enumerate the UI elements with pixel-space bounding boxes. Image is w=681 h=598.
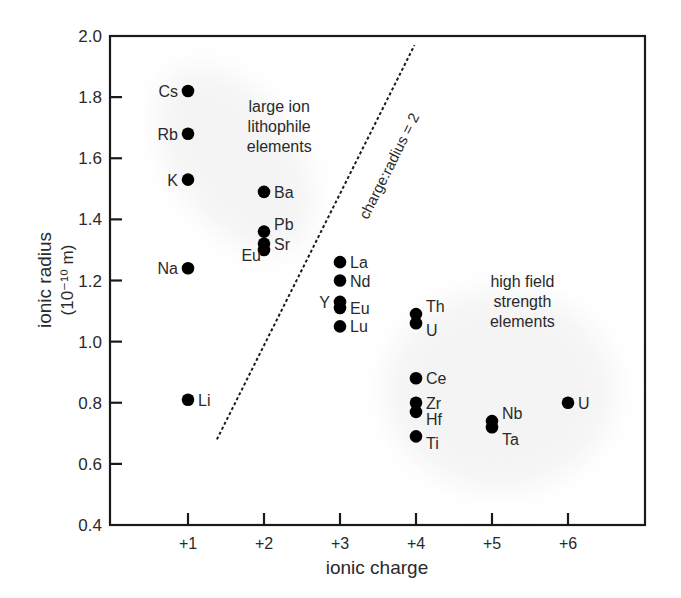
region-annotation: elements — [247, 138, 312, 155]
region-annotation: lithophile — [248, 118, 311, 135]
y-tick-label: 0.6 — [78, 455, 102, 474]
point-label: Cs — [158, 83, 178, 100]
point-label: Y — [319, 294, 330, 311]
point-label: Lu — [350, 318, 368, 335]
y-tick-label: 0.4 — [78, 516, 102, 535]
point-label: La — [350, 254, 368, 271]
point-label: Nb — [502, 405, 523, 422]
reference-line-label: charge:radius = 2 — [355, 110, 422, 222]
data-point-rb — [182, 128, 195, 141]
data-point-hf — [410, 406, 423, 419]
point-label: Ba — [274, 184, 294, 201]
x-tick-label: +6 — [559, 535, 577, 552]
x-tick-label: +4 — [407, 535, 425, 552]
point-label: Ce — [426, 370, 447, 387]
data-point-lu — [334, 320, 347, 333]
scatter-chart: 0.40.60.81.01.21.41.61.82.0+1+2+3+4+5+6 … — [0, 0, 681, 598]
region-annotation: large ion — [249, 98, 310, 115]
x-tick-label: +5 — [483, 535, 501, 552]
point-label: K — [167, 172, 178, 189]
y-tick-label: 1.6 — [78, 149, 102, 168]
data-point-nd — [334, 274, 347, 287]
region-annotation: strength — [493, 293, 551, 310]
data-point-li — [182, 393, 195, 406]
data-point-ta — [486, 421, 499, 434]
y-tick-label: 0.8 — [78, 394, 102, 413]
point-label: Sr — [274, 236, 291, 253]
region-shading — [124, 38, 615, 490]
data-point-eu — [334, 302, 347, 315]
point-label: Nd — [350, 273, 370, 290]
lile-region — [124, 38, 346, 281]
data-point-pb — [258, 225, 271, 238]
data-point-ba — [258, 186, 271, 199]
point-label: Na — [158, 260, 179, 277]
point-label: Hf — [426, 411, 443, 428]
y-axis-units: (10⁻¹⁰ m) — [58, 245, 77, 316]
data-point-k — [182, 173, 195, 186]
y-tick-label: 1.2 — [78, 272, 102, 291]
x-tick-label: +1 — [179, 535, 197, 552]
data-point-la — [334, 256, 347, 269]
point-label: U — [426, 322, 438, 339]
x-axis-label: ionic charge — [326, 557, 428, 578]
data-point-cs — [182, 85, 195, 98]
point-label: Li — [198, 392, 210, 409]
y-tick-label: 1.8 — [78, 88, 102, 107]
point-label: Zr — [426, 395, 442, 412]
y-tick-label: 1.4 — [78, 210, 102, 229]
y-tick-label: 1.0 — [78, 333, 102, 352]
y-axis-label: ionic radius — [34, 232, 55, 328]
region-annotation: elements — [490, 313, 555, 330]
point-label: Ti — [426, 435, 439, 452]
data-point-ti — [410, 430, 423, 443]
region-annotation: high field — [490, 273, 554, 290]
y-tick-label: 2.0 — [78, 27, 102, 46]
data-point-na — [182, 262, 195, 275]
point-label: Th — [426, 298, 445, 315]
data-point-ce — [410, 372, 423, 385]
x-tick-label: +3 — [331, 535, 349, 552]
data-point-u — [562, 396, 575, 409]
point-label: Eu — [350, 300, 370, 317]
point-label: Rb — [158, 126, 179, 143]
point-label: Pb — [274, 216, 294, 233]
point-label: Ta — [502, 431, 519, 448]
point-label: U — [578, 395, 590, 412]
x-tick-label: +2 — [255, 535, 273, 552]
point-label: Eu — [241, 247, 261, 264]
data-point-u — [410, 317, 423, 330]
